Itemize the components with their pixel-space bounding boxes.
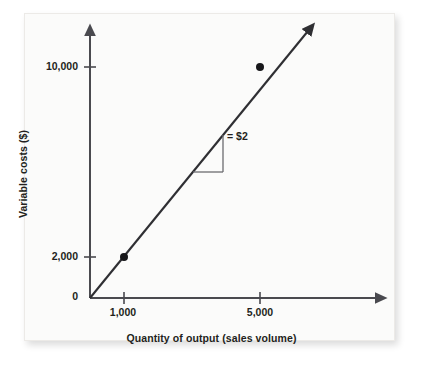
x-tick-label-5000: 5,000 xyxy=(230,306,290,318)
slope-annotation-label: = $2 xyxy=(227,130,248,142)
x-tick-label-1000: 1,000 xyxy=(93,306,153,318)
y-tick-label-10000: 10,000 xyxy=(6,60,78,72)
origin-label: 0 xyxy=(56,290,78,302)
y-tick-label-2000: 2,000 xyxy=(6,250,78,262)
data-point-marker xyxy=(120,253,128,261)
variable-costs-chart xyxy=(25,14,394,340)
figure-card xyxy=(24,13,395,341)
x-axis-title: Quantity of output (sales volume) xyxy=(0,332,423,344)
y-axis-title: Variable costs ($) xyxy=(17,104,29,244)
data-point-marker xyxy=(256,63,264,71)
